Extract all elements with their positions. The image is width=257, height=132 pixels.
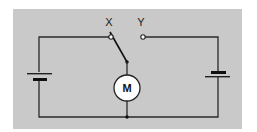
motor-label: M (122, 82, 131, 94)
contact-x (109, 35, 113, 39)
contact-y (141, 35, 145, 39)
label-y: Y (137, 16, 145, 28)
motor-icon: M (114, 75, 140, 101)
circuit-diagram: M X Y (0, 0, 257, 132)
label-x: X (105, 16, 113, 28)
bottom-junction (125, 115, 128, 118)
